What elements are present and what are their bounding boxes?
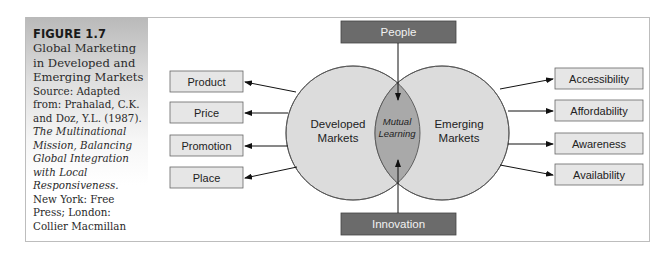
left-box-place: Place (170, 167, 243, 188)
left-box-product: Product (170, 71, 243, 92)
svg-text:Place: Place (193, 172, 221, 184)
svg-text:Availability: Availability (573, 169, 625, 181)
right-box-accessibility: Accessibility (555, 68, 643, 89)
right-box-affordability: Affordability (555, 100, 643, 121)
developed-label: Developed (311, 118, 366, 130)
emerging-label: Emerging (434, 118, 483, 130)
left-box-promotion: Promotion (170, 135, 243, 156)
svg-text:Learning: Learning (379, 128, 417, 139)
svg-text:Markets: Markets (318, 132, 359, 144)
svg-text:Price: Price (194, 107, 219, 119)
innovation-label: Innovation (372, 218, 425, 230)
right-box-awareness: Awareness (555, 133, 643, 154)
people-label: People (381, 26, 417, 38)
left-box-price: Price (170, 102, 243, 123)
svg-text:Markets: Markets (439, 132, 480, 144)
venn-diagram: Developed Markets Emerging Markets Mutua… (0, 0, 671, 257)
svg-text:Promotion: Promotion (181, 140, 231, 152)
right-box-availability: Availability (555, 164, 643, 185)
mutual-label: Mutual (383, 116, 412, 127)
svg-text:Affordability: Affordability (570, 105, 628, 117)
svg-text:Awareness: Awareness (572, 138, 627, 150)
svg-text:Product: Product (188, 76, 226, 88)
svg-text:Accessibility: Accessibility (569, 73, 629, 85)
